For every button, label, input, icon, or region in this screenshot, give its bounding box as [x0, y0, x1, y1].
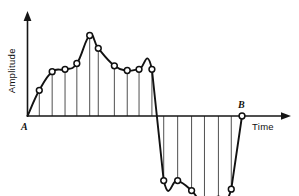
data-point-marker-9 [136, 66, 142, 72]
end-point-label: B [238, 100, 245, 110]
plot-canvas [0, 0, 299, 196]
data-point-marker-16 [228, 186, 234, 192]
data-point-marker-11 [161, 178, 167, 184]
waveform-figure: Amplitude Time A B [0, 0, 299, 196]
y-axis-arrowhead [24, 11, 32, 21]
start-point-label: A [21, 122, 28, 132]
data-point-marker-12 [175, 178, 181, 184]
y-axis-title: Amplitude [7, 40, 17, 102]
x-axis-title: Time [252, 122, 274, 132]
data-point-marker-5 [87, 33, 93, 39]
data-point-marker-10 [149, 66, 155, 72]
data-point-marker-8 [124, 68, 130, 74]
data-marker-group [36, 33, 245, 196]
data-point-marker-13 [189, 188, 195, 194]
data-point-marker-3 [62, 66, 68, 72]
data-point-marker-4 [74, 61, 80, 67]
data-point-marker-6 [95, 45, 101, 51]
x-axis-arrowhead [281, 112, 291, 120]
data-point-marker-1 [36, 87, 42, 93]
axes-group [24, 11, 291, 120]
data-point-marker-17 [239, 113, 245, 119]
data-point-marker-7 [111, 63, 117, 69]
data-point-marker-2 [49, 69, 55, 75]
